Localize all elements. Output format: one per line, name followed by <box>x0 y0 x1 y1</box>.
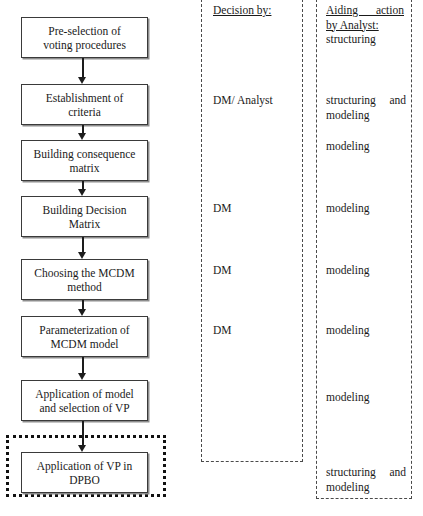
flow-node-consequence-matrix[interactable]: Building consequence matrix <box>21 140 148 181</box>
arrow-shaft <box>82 181 84 189</box>
aiding-entry-structuring: structuring <box>326 32 376 47</box>
diagram-canvas: Pre-selection of voting procedures Estab… <box>0 0 423 516</box>
aiding-entry-structuring-modeling-2: structuring and modeling <box>326 465 406 494</box>
decision-entry-dm-3: DM <box>213 323 232 338</box>
arrow-shaft <box>82 125 84 133</box>
flow-node-application-model[interactable]: Application of model and selection of VP <box>21 380 148 421</box>
aiding-entry-modeling-3: modeling <box>326 263 369 278</box>
flow-node-label: Choosing the MCDM method <box>30 266 138 294</box>
flow-node-label: Application of model and selection of VP <box>31 387 137 415</box>
flow-node-parameterization[interactable]: Parameterization of MCDM model <box>21 316 148 357</box>
flow-node-label: Establishment of criteria <box>42 91 128 119</box>
flow-node-label: Building Decision Matrix <box>38 203 130 231</box>
decision-column-header: Decision by: <box>213 3 271 18</box>
aiding-entry-modeling-1: modeling <box>326 139 369 154</box>
arrow-head-icon <box>78 309 86 316</box>
arrow-head-icon <box>78 252 86 259</box>
flow-node-choosing-method[interactable]: Choosing the MCDM method <box>21 259 148 300</box>
aiding-entry-line1: structuring and <box>326 465 406 480</box>
aiding-entry-line1: structuring and <box>326 93 406 108</box>
decision-entry-dm-1: DM <box>213 201 232 216</box>
arrow-shaft <box>82 421 84 445</box>
aiding-entry-modeling-2: modeling <box>326 201 369 216</box>
arrow-head-icon <box>78 445 86 452</box>
aiding-entry-modeling-5: modeling <box>326 390 369 405</box>
flow-node-label: Pre-selection of voting procedures <box>39 24 130 52</box>
aiding-entry-line2: modeling <box>326 480 406 495</box>
aiding-entry-structuring-modeling-1: structuring and modeling <box>326 93 406 122</box>
arrow-shaft <box>82 357 84 373</box>
arrow-head-icon <box>78 189 86 196</box>
aiding-entry-modeling-4: modeling <box>326 323 369 338</box>
arrow-shaft <box>82 58 84 77</box>
decision-column-frame <box>201 0 303 462</box>
flow-node-establishment[interactable]: Establishment of criteria <box>21 84 148 125</box>
arrow-head-icon <box>78 77 86 84</box>
flow-node-application-dpbo[interactable]: Application of VP in DPBO <box>21 452 148 493</box>
arrow-shaft <box>82 237 84 252</box>
aiding-entry-line2: modeling <box>326 108 406 123</box>
decision-entry-dm-analyst: DM/ Analyst <box>213 93 273 108</box>
aiding-column-header: Aiding action by Analyst: <box>326 3 404 32</box>
aiding-column-header-line2: by Analyst: <box>326 18 404 33</box>
arrow-head-icon <box>78 373 86 380</box>
flow-node-label: Building consequence matrix <box>30 147 140 175</box>
flow-node-decision-matrix[interactable]: Building Decision Matrix <box>21 196 148 237</box>
decision-entry-dm-2: DM <box>213 263 232 278</box>
flow-node-pre-selection[interactable]: Pre-selection of voting procedures <box>21 17 148 58</box>
aiding-action-column-frame <box>316 0 412 499</box>
arrow-head-icon <box>78 133 86 140</box>
arrow-shaft <box>82 300 84 309</box>
aiding-column-header-line1: Aiding action <box>326 3 404 18</box>
flow-node-label: Parameterization of MCDM model <box>35 323 133 351</box>
flow-node-label: Application of VP in DPBO <box>33 459 137 487</box>
